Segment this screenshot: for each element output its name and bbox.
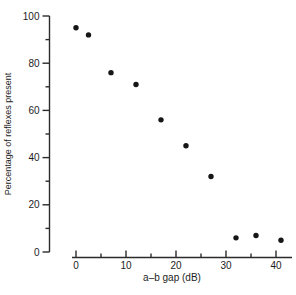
y-axis-tick-label: 0 — [34, 247, 40, 258]
y-axis-tick-label: 20 — [28, 199, 40, 210]
axes-group — [50, 16, 293, 258]
x-axis-tick-label: 10 — [120, 260, 132, 271]
y-axis-tick-label: 40 — [28, 152, 40, 163]
data-point — [278, 238, 283, 243]
data-point — [208, 174, 213, 179]
y-axis-tick-label: 60 — [28, 105, 40, 116]
data-point — [183, 143, 188, 148]
x-axis-title: a–b gap (dB) — [143, 272, 201, 283]
tick-labels-group: 020406080100010203040 — [23, 11, 282, 271]
data-points-group — [73, 25, 283, 243]
y-axis-tick-label: 100 — [23, 11, 40, 22]
y-axis-title: Percentage of reflexes present — [3, 72, 13, 195]
x-axis-tick-label: 20 — [170, 260, 182, 271]
x-axis-tick-label: 30 — [220, 260, 232, 271]
x-axis-tick-label: 0 — [73, 260, 79, 271]
scatter-plot-figure: 020406080100010203040 a–b gap (dB) Perce… — [0, 0, 296, 295]
data-point — [158, 117, 163, 122]
x-axis-tick-label: 40 — [270, 260, 282, 271]
ticks-group — [43, 16, 277, 258]
data-point — [73, 25, 78, 30]
data-point — [253, 233, 258, 238]
data-point — [133, 82, 138, 87]
y-axis-tick-label: 80 — [28, 58, 40, 69]
data-point — [233, 235, 238, 240]
scatter-chart: 020406080100010203040 a–b gap (dB) Perce… — [0, 0, 296, 295]
data-point — [108, 70, 113, 75]
data-point — [86, 32, 91, 37]
